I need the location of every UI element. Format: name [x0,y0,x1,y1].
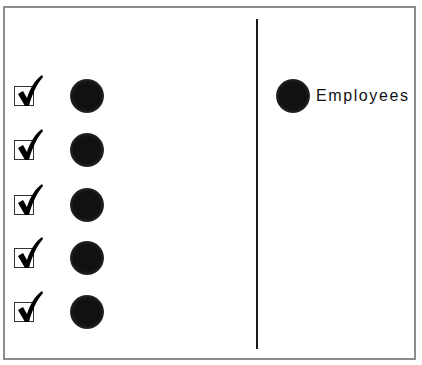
list-item [0,185,250,225]
list-item [0,130,250,170]
checkmark-icon [14,290,44,324]
legend-label: Employees [316,87,422,105]
filled-circle-icon [70,133,104,167]
checkmark-icon [14,74,44,108]
checkmark-icon [14,128,44,162]
filled-circle-icon [70,188,104,222]
list-item [0,238,250,278]
filled-circle-icon [276,79,310,113]
list-item [0,292,250,332]
filled-circle-icon [70,295,104,329]
checkmark-icon [14,183,44,217]
vertical-divider [256,19,258,349]
filled-circle-icon [70,241,104,275]
filled-circle-icon [70,79,104,113]
list-item [0,76,250,116]
legend-item-employees: Employees [276,78,422,114]
checkmark-icon [14,236,44,270]
